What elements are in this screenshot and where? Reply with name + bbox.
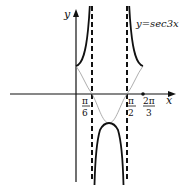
sec-branch-middle xyxy=(95,123,124,185)
function-label: y=sec3x xyxy=(135,18,179,29)
tick-2pi-3-num: 2π xyxy=(143,96,155,106)
tick-pi-6-den: 6 xyxy=(82,108,88,118)
sec3x-graph: y x y=sec3x π 6 π 2 2π 3 xyxy=(0,0,184,189)
y-axis-arrow-icon xyxy=(73,9,79,17)
tick-pi-2-num: π xyxy=(128,96,134,106)
sec-branch-right xyxy=(129,6,143,66)
plot-svg: y x y=sec3x π 6 π 2 2π 3 xyxy=(0,0,184,189)
function-label-text: y=sec3x xyxy=(135,18,179,29)
tick-2pi-3-den: 3 xyxy=(146,108,152,118)
tick-pi-6-num: π xyxy=(82,96,88,106)
y-axis-label: y xyxy=(63,8,71,21)
x-axis-label: x xyxy=(166,94,173,107)
tick-pi-2-den: 2 xyxy=(128,108,134,118)
